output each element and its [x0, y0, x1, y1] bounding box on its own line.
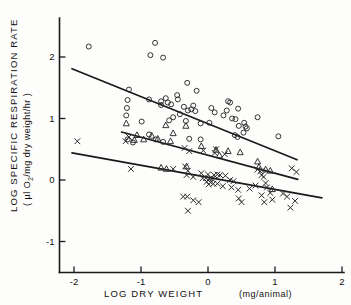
point-cross: [236, 187, 241, 192]
point-cross: [270, 197, 275, 202]
y-tick-label-1: 1: [49, 113, 54, 124]
x-tick-label--1: -1: [137, 276, 145, 287]
point-circle: [224, 108, 229, 113]
point-triangle: [167, 138, 173, 144]
point-circle: [236, 123, 241, 128]
point-cross: [191, 198, 196, 203]
point-circle: [124, 113, 129, 118]
point-circle: [276, 134, 281, 139]
x-axis-ticks: -2-1012: [70, 267, 345, 287]
point-circle: [241, 130, 246, 135]
point-cross: [288, 205, 293, 210]
point-cross: [128, 166, 133, 171]
x-tick-label-1: 1: [272, 276, 277, 287]
point-cross: [236, 196, 241, 201]
y-axis-units-group: ( µl O2/mg dry weight/hr ): [22, 93, 34, 206]
point-circle: [148, 53, 153, 58]
svg-text:( µl O2/mg dry weight/hr ): ( µl O2/mg dry weight/hr ): [22, 93, 34, 206]
point-cross: [229, 185, 234, 190]
point-circle: [198, 137, 203, 142]
point-triangle: [237, 149, 243, 155]
point-cross: [196, 200, 201, 205]
point-cross: [185, 194, 190, 199]
chart-canvas: LOG SPECIFIC RESPIRATION RATE ( µl O2/mg…: [0, 0, 351, 305]
point-circle: [233, 117, 238, 122]
point-circle: [86, 44, 91, 49]
point-cross: [185, 208, 190, 213]
point-circle: [221, 113, 226, 118]
point-circle: [161, 55, 166, 60]
point-cross: [289, 166, 294, 171]
point-circle: [236, 106, 241, 111]
point-triangle: [198, 143, 204, 149]
axes: [60, 18, 345, 273]
y-tick-label-2: 2: [49, 51, 54, 62]
point-cross: [259, 193, 264, 198]
point-cross: [123, 139, 128, 144]
y-tick-label--1: -1: [46, 236, 54, 247]
point-cross: [268, 190, 273, 195]
point-cross: [247, 186, 252, 191]
point-cross: [293, 198, 298, 203]
y-axis-ticks: -1012: [46, 51, 65, 247]
point-cross: [215, 181, 220, 186]
point-circle: [185, 80, 190, 85]
point-triangle: [170, 130, 176, 136]
point-circle: [212, 110, 217, 115]
point-circle: [153, 40, 158, 45]
x-tick-label--2: -2: [70, 276, 78, 287]
point-cross: [294, 169, 299, 174]
series-triangles: [123, 120, 275, 191]
point-cross: [263, 180, 268, 185]
y-tick-label-0: 0: [49, 174, 54, 185]
point-cross: [220, 184, 225, 189]
x-axis-title-group: LOG DRY WEIGHT (mg/animal): [104, 288, 292, 299]
point-circle: [124, 106, 129, 111]
point-cross: [262, 200, 267, 205]
point-circle: [255, 115, 260, 120]
point-triangle: [123, 120, 129, 126]
y-units-pre: ( µl O: [22, 181, 32, 206]
point-circle: [171, 115, 176, 120]
point-circle: [181, 104, 186, 109]
point-triangle: [183, 123, 189, 129]
x-axis-title: LOG DRY WEIGHT: [104, 288, 203, 299]
point-cross: [284, 194, 289, 199]
x-tick-label-0: 0: [205, 276, 210, 287]
point-circle: [125, 98, 130, 103]
point-circle: [198, 121, 203, 126]
point-circle: [139, 119, 144, 124]
x-tick-label-2: 2: [339, 276, 344, 287]
point-cross: [75, 139, 80, 144]
y-axis-title: LOG SPECIFIC RESPIRATION RATE: [8, 19, 19, 212]
series-circles: [86, 40, 281, 145]
point-cross: [222, 152, 227, 157]
point-cross: [199, 171, 204, 176]
x-axis-units: (mg/animal): [239, 289, 292, 299]
y-axis-title-group: LOG SPECIFIC RESPIRATION RATE ( µl O2/mg…: [8, 19, 34, 212]
point-circle: [185, 108, 190, 113]
point-circle: [209, 106, 214, 111]
point-circle: [187, 136, 192, 141]
y-units-post: /mg dry weight/hr ): [22, 93, 32, 177]
point-cross: [239, 200, 244, 205]
respiration-rate-scatter-figure: LOG SPECIFIC RESPIRATION RATE ( µl O2/mg…: [0, 0, 351, 305]
point-cross: [261, 174, 266, 179]
point-circle: [194, 88, 199, 93]
point-triangle: [255, 158, 261, 164]
